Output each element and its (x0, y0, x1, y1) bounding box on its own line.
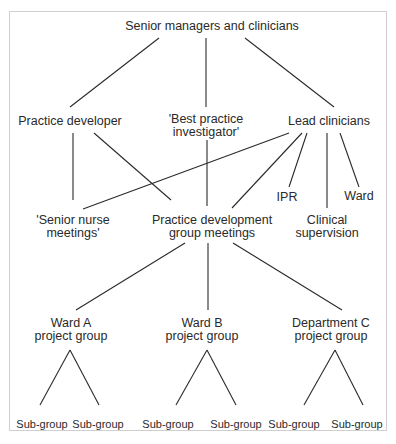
node-label: Sub-group (142, 418, 193, 431)
node-sub-group-5: Sub-group (268, 418, 319, 431)
node-label: IPR (277, 191, 298, 204)
node-ward: Ward (344, 190, 373, 203)
node-label: project group (292, 330, 370, 343)
node-label: supervision (295, 227, 358, 240)
node-lead-clinicians: Lead clinicians (288, 115, 370, 128)
node-best-practice-investigator: 'Best practiceinvestigator' (169, 113, 244, 139)
node-department-c: Department Cproject group (292, 317, 370, 343)
node-label: project group (166, 330, 239, 343)
node-label: Sub-group (72, 418, 123, 431)
node-label: Sub-group (268, 418, 319, 431)
node-sub-group-1: Sub-group (16, 418, 67, 431)
node-label: Ward (344, 190, 373, 203)
node-sub-group-6: Sub-group (331, 418, 382, 431)
node-label: investigator' (169, 126, 244, 139)
node-senior-managers: Senior managers and clinicians (125, 20, 299, 33)
node-label: project group (35, 330, 108, 343)
node-label: meetings' (36, 227, 109, 240)
node-practice-developer: Practice developer (18, 115, 122, 128)
node-sub-group-4: Sub-group (210, 418, 261, 431)
node-senior-nurse-meetings: 'Senior nursemeetings' (36, 214, 109, 240)
node-sub-group-3: Sub-group (142, 418, 193, 431)
node-label: Sub-group (16, 418, 67, 431)
node-ward-b: Ward Bproject group (166, 317, 239, 343)
node-label: Practice developer (18, 115, 122, 128)
node-clinical-supervision: Clinicalsupervision (295, 214, 358, 240)
node-ipr: IPR (277, 191, 298, 204)
node-label: group meetings (152, 227, 272, 240)
node-label: Senior managers and clinicians (125, 20, 299, 33)
node-ward-a: Ward Aproject group (35, 317, 108, 343)
node-sub-group-2: Sub-group (72, 418, 123, 431)
node-practice-development-group: Practice developmentgroup meetings (152, 214, 272, 240)
node-label: Sub-group (331, 418, 382, 431)
node-label: Lead clinicians (288, 115, 370, 128)
node-label: Sub-group (210, 418, 261, 431)
